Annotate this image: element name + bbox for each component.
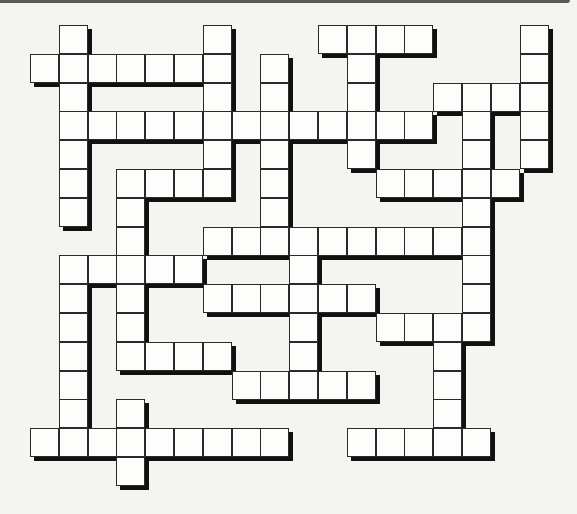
crossword-cell-r3-c17[interactable] xyxy=(520,111,549,140)
crossword-cell-r12-c11[interactable] xyxy=(347,371,376,400)
crossword-cell-r2-c15[interactable] xyxy=(462,83,491,112)
crossword-cell-r1-c5[interactable] xyxy=(174,54,203,83)
crossword-cell-r5-c14[interactable] xyxy=(433,169,462,198)
crossword-cell-r6-c1[interactable] xyxy=(59,198,88,227)
crossword-cell-r9-c15[interactable] xyxy=(462,284,491,313)
crossword-cell-r2-c8[interactable] xyxy=(260,83,289,112)
crossword-cell-r1-c1[interactable] xyxy=(59,54,88,83)
crossword-cell-r0-c11[interactable] xyxy=(347,25,376,54)
crossword-cell-r4-c6[interactable] xyxy=(203,140,232,169)
crossword-cell-r6-c3[interactable] xyxy=(116,198,145,227)
crossword-cell-r7-c12[interactable] xyxy=(376,227,405,256)
crossword-cell-r2-c14[interactable] xyxy=(433,83,462,112)
crossword-cell-r7-c15[interactable] xyxy=(462,227,491,256)
crossword-cell-r9-c3[interactable] xyxy=(116,284,145,313)
crossword-cell-r5-c1[interactable] xyxy=(59,169,88,198)
crossword-cell-r3-c11[interactable] xyxy=(347,111,376,140)
crossword-cell-r9-c9[interactable] xyxy=(289,284,318,313)
crossword-cell-r13-c1[interactable] xyxy=(59,399,88,428)
crossword-cell-r0-c6[interactable] xyxy=(203,25,232,54)
crossword-cell-r3-c10[interactable] xyxy=(318,111,347,140)
crossword-cell-r3-c15[interactable] xyxy=(462,111,491,140)
crossword-cell-r11-c6[interactable] xyxy=(203,342,232,371)
crossword-cell-r8-c3[interactable] xyxy=(116,255,145,284)
crossword-cell-r12-c8[interactable] xyxy=(260,371,289,400)
crossword-cell-r3-c6[interactable] xyxy=(203,111,232,140)
crossword-cell-r5-c5[interactable] xyxy=(174,169,203,198)
crossword-cell-r8-c9[interactable] xyxy=(289,255,318,284)
crossword-cell-r8-c1[interactable] xyxy=(59,255,88,284)
crossword-cell-r9-c7[interactable] xyxy=(232,284,261,313)
crossword-cell-r3-c9[interactable] xyxy=(289,111,318,140)
crossword-cell-r11-c1[interactable] xyxy=(59,342,88,371)
crossword-cell-r8-c2[interactable] xyxy=(88,255,117,284)
crossword-cell-r12-c9[interactable] xyxy=(289,371,318,400)
crossword-cell-r14-c15[interactable] xyxy=(462,428,491,457)
crossword-cell-r5-c6[interactable] xyxy=(203,169,232,198)
crossword-cell-r0-c10[interactable] xyxy=(318,25,347,54)
crossword-cell-r12-c14[interactable] xyxy=(433,371,462,400)
crossword-cell-r11-c3[interactable] xyxy=(116,342,145,371)
crossword-cell-r14-c11[interactable] xyxy=(347,428,376,457)
crossword-cell-r0-c1[interactable] xyxy=(59,25,88,54)
crossword-cell-r2-c6[interactable] xyxy=(203,83,232,112)
crossword-cell-r7-c8[interactable] xyxy=(260,227,289,256)
crossword-cell-r5-c4[interactable] xyxy=(145,169,174,198)
crossword-cell-r12-c1[interactable] xyxy=(59,371,88,400)
crossword-cell-r0-c12[interactable] xyxy=(376,25,405,54)
crossword-cell-r4-c11[interactable] xyxy=(347,140,376,169)
crossword-cell-r3-c8[interactable] xyxy=(260,111,289,140)
crossword-cell-r14-c7[interactable] xyxy=(232,428,261,457)
crossword-cell-r8-c4[interactable] xyxy=(145,255,174,284)
crossword-cell-r10-c15[interactable] xyxy=(462,313,491,342)
crossword-cell-r7-c3[interactable] xyxy=(116,227,145,256)
crossword-cell-r14-c3[interactable] xyxy=(116,428,145,457)
crossword-cell-r13-c3[interactable] xyxy=(116,399,145,428)
crossword-cell-r14-c8[interactable] xyxy=(260,428,289,457)
crossword-cell-r10-c13[interactable] xyxy=(404,313,433,342)
crossword-cell-r4-c1[interactable] xyxy=(59,140,88,169)
crossword-cell-r10-c1[interactable] xyxy=(59,313,88,342)
crossword-cell-r1-c6[interactable] xyxy=(203,54,232,83)
crossword-cell-r5-c16[interactable] xyxy=(491,169,520,198)
crossword-cell-r9-c6[interactable] xyxy=(203,284,232,313)
crossword-cell-r7-c7[interactable] xyxy=(232,227,261,256)
crossword-cell-r4-c15[interactable] xyxy=(462,140,491,169)
crossword-cell-r14-c14[interactable] xyxy=(433,428,462,457)
crossword-cell-r10-c12[interactable] xyxy=(376,313,405,342)
crossword-cell-r1-c8[interactable] xyxy=(260,54,289,83)
crossword-cell-r14-c4[interactable] xyxy=(145,428,174,457)
crossword-cell-r1-c2[interactable] xyxy=(88,54,117,83)
crossword-cell-r3-c13[interactable] xyxy=(404,111,433,140)
crossword-cell-r3-c12[interactable] xyxy=(376,111,405,140)
crossword-cell-r13-c14[interactable] xyxy=(433,399,462,428)
crossword-cell-r7-c9[interactable] xyxy=(289,227,318,256)
crossword-cell-r4-c8[interactable] xyxy=(260,140,289,169)
crossword-cell-r11-c9[interactable] xyxy=(289,342,318,371)
crossword-cell-r3-c3[interactable] xyxy=(116,111,145,140)
crossword-cell-r10-c9[interactable] xyxy=(289,313,318,342)
crossword-cell-r7-c13[interactable] xyxy=(404,227,433,256)
crossword-cell-r10-c3[interactable] xyxy=(116,313,145,342)
crossword-cell-r3-c1[interactable] xyxy=(59,111,88,140)
crossword-cell-r9-c1[interactable] xyxy=(59,284,88,313)
crossword-cell-r5-c15[interactable] xyxy=(462,169,491,198)
crossword-cell-r1-c4[interactable] xyxy=(145,54,174,83)
crossword-cell-r11-c14[interactable] xyxy=(433,342,462,371)
crossword-cell-r7-c6[interactable] xyxy=(203,227,232,256)
crossword-cell-r12-c7[interactable] xyxy=(232,371,261,400)
crossword-cell-r5-c12[interactable] xyxy=(376,169,405,198)
crossword-cell-r7-c14[interactable] xyxy=(433,227,462,256)
crossword-cell-r9-c10[interactable] xyxy=(318,284,347,313)
crossword-cell-r11-c5[interactable] xyxy=(174,342,203,371)
crossword-cell-r6-c15[interactable] xyxy=(462,198,491,227)
crossword-cell-r0-c17[interactable] xyxy=(520,25,549,54)
crossword-cell-r0-c13[interactable] xyxy=(404,25,433,54)
crossword-cell-r7-c10[interactable] xyxy=(318,227,347,256)
crossword-cell-r14-c5[interactable] xyxy=(174,428,203,457)
crossword-cell-r5-c8[interactable] xyxy=(260,169,289,198)
crossword-cell-r9-c8[interactable] xyxy=(260,284,289,313)
crossword-cell-r14-c0[interactable] xyxy=(30,428,59,457)
crossword-cell-r3-c2[interactable] xyxy=(88,111,117,140)
crossword-cell-r2-c11[interactable] xyxy=(347,83,376,112)
